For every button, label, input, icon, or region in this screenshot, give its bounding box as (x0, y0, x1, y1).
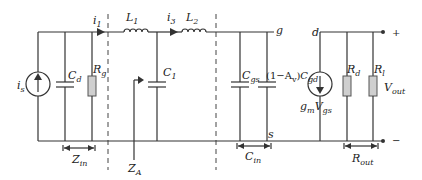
label-cgs: Cgs (242, 69, 260, 84)
label-node-s: s (268, 128, 274, 141)
label-cin: Cin (245, 150, 261, 165)
label-c1: C1 (163, 66, 177, 81)
inductor-l2 (182, 29, 206, 32)
label-i1: i1 (93, 14, 102, 29)
label-rout: Rout (351, 152, 374, 167)
label-rl: Rl (373, 63, 385, 78)
label-minus: − (392, 135, 400, 146)
zin-dimension (63, 145, 95, 151)
output-terminal-minus (381, 139, 385, 143)
current-source-is (26, 72, 50, 96)
cin-dimension (237, 143, 271, 149)
label-l2: L2 (185, 11, 198, 26)
circuit-diagram: is Cd Rg i1 L1 i3 L2 C1 g Cgs (1−Av)Cgd … (0, 0, 422, 180)
output-terminal-plus (381, 30, 385, 34)
label-plus: + (392, 27, 400, 38)
label-rd: Rd (346, 63, 360, 78)
resistor-rl (369, 76, 377, 96)
current-arrow-i1 (97, 28, 105, 36)
inductor-l1 (124, 29, 148, 32)
label-za: ZA (127, 162, 142, 177)
label-is: is (17, 79, 25, 94)
label-gm-vgs: gmVgs (300, 100, 332, 115)
label-vout: Vout (384, 81, 406, 96)
label-l1: L1 (125, 11, 138, 26)
label-cd: Cd (68, 69, 82, 84)
rout-dimension (344, 143, 378, 149)
resistor-rg (88, 76, 96, 96)
label-rg: Rg (92, 63, 106, 78)
resistor-rd (343, 76, 351, 96)
label-zin: Zin (71, 153, 87, 168)
label-i3: i3 (167, 11, 176, 26)
label-node-g: g (276, 24, 283, 37)
label-node-d: d (312, 26, 319, 39)
